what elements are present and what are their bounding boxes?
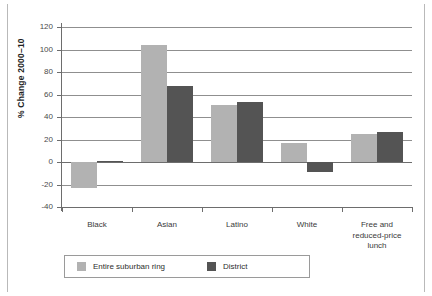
y-tick-label: 0 <box>49 158 53 166</box>
legend-label: Entire suburban ring <box>93 262 165 271</box>
bar <box>141 45 167 162</box>
x-tick <box>272 207 273 212</box>
bar <box>307 162 333 172</box>
bar <box>351 134 377 162</box>
legend-swatch-icon <box>77 262 86 271</box>
y-tick-label: 40 <box>44 113 53 121</box>
x-tick-label: Free andreduced-pricelunch <box>334 220 420 252</box>
y-tick-label: 100 <box>40 46 53 54</box>
figure-frame: % Change 2000–10 120100806040200-20-40 B… <box>0 0 432 296</box>
bar-group <box>132 27 202 207</box>
chart-legend: Entire suburban ringDistrict <box>64 255 310 278</box>
bar-group <box>202 27 272 207</box>
x-axis-line <box>62 207 412 208</box>
legend-label: District <box>223 262 247 271</box>
bar <box>377 132 403 162</box>
y-axis-title: % Change 2000–10 <box>16 38 26 118</box>
y-tick-label: 60 <box>44 91 53 99</box>
bar <box>167 86 193 163</box>
page-left-rule <box>7 4 8 292</box>
bar <box>211 105 237 162</box>
bar-group <box>272 27 342 207</box>
x-tick <box>132 207 133 212</box>
y-tick-label: -40 <box>41 203 53 211</box>
legend-entry: Entire suburban ring <box>77 256 165 277</box>
plot-area: 120100806040200-20-40 <box>62 27 412 207</box>
bar <box>71 162 97 188</box>
x-tick <box>202 207 203 212</box>
bar <box>237 102 263 162</box>
page-right-rule <box>424 4 425 292</box>
y-tick-label: 80 <box>44 68 53 76</box>
y-tick-label: 120 <box>40 23 53 31</box>
bar-group <box>342 27 412 207</box>
x-tick <box>412 207 413 212</box>
x-tick <box>342 207 343 212</box>
legend-swatch-icon <box>207 262 216 271</box>
y-tick-label: 20 <box>44 136 53 144</box>
bar-group <box>62 27 132 207</box>
bar <box>97 161 123 162</box>
bar <box>281 143 307 162</box>
y-tick-label: -20 <box>41 181 53 189</box>
x-tick <box>62 207 63 212</box>
legend-entry: District <box>207 256 247 277</box>
